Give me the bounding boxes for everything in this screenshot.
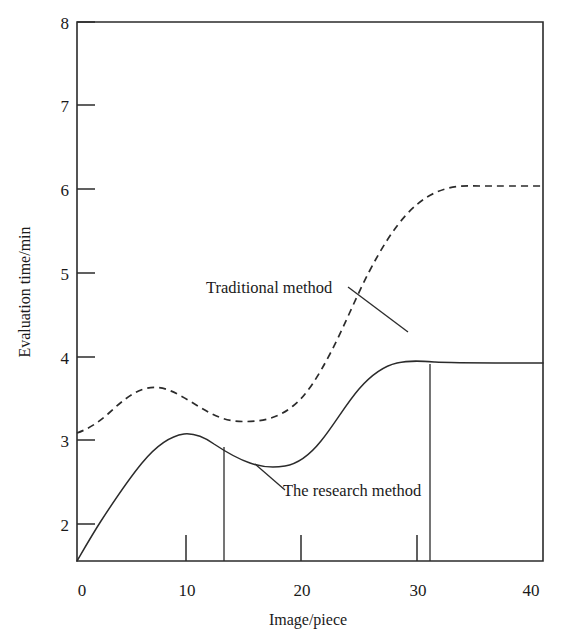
- y-tick-label-2: 2: [61, 516, 70, 535]
- y-tick-marks: [77, 22, 95, 524]
- research-method-label: The research method: [283, 481, 422, 500]
- y-tick-label-7: 7: [61, 97, 70, 116]
- series-traditional-method: [77, 186, 543, 433]
- y-tick-label-8: 8: [61, 14, 70, 33]
- x-tick-marks: [186, 535, 417, 561]
- line-chart: 8 7 6 5 4 3 2 0 10 20 30 40 Evaluation t…: [0, 0, 563, 643]
- x-tick-label-10: 10: [179, 581, 196, 600]
- y-tick-label-6: 6: [61, 181, 70, 200]
- x-axis-title: Image/piece: [269, 611, 347, 629]
- x-tick-label-20: 20: [294, 581, 311, 600]
- series-research-method: [77, 361, 543, 561]
- x-tick-label-30: 30: [410, 581, 427, 600]
- y-tick-label-3: 3: [61, 432, 70, 451]
- y-tick-label-4: 4: [61, 349, 70, 368]
- chart-page: 8 7 6 5 4 3 2 0 10 20 30 40 Evaluation t…: [0, 0, 563, 643]
- traditional-method-leader-line: [348, 287, 408, 332]
- traditional-method-label: Traditional method: [206, 278, 333, 297]
- y-axis-title: Evaluation time/min: [16, 226, 33, 357]
- x-tick-label-0: 0: [78, 581, 87, 600]
- y-tick-label-5: 5: [61, 265, 70, 284]
- x-tick-label-40: 40: [523, 581, 540, 600]
- research-method-leader-line: [255, 464, 285, 490]
